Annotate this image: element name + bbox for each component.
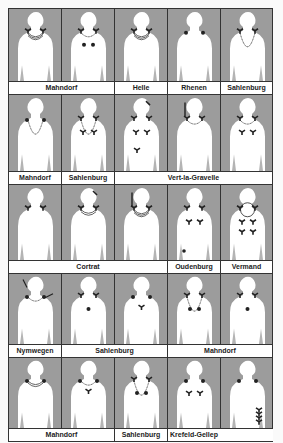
female-figure-icon [168, 9, 220, 81]
site-label: Vermand [220, 261, 273, 273]
female-figure-icon [221, 274, 273, 344]
female-figure-icon [168, 358, 220, 428]
diagram-row: NymwegenSahlenburgMahndorf [8, 274, 273, 358]
costume-figure-panel [167, 274, 220, 344]
diagram-row: MahndorfSahlenburgVert-la-Gravelle [8, 95, 273, 185]
female-figure-icon [62, 9, 114, 81]
panel-row [8, 8, 273, 81]
costume-figure-panel [8, 185, 61, 260]
costume-figure-panel [167, 95, 220, 171]
costume-figure-panel [167, 185, 220, 260]
costume-figure-panel [220, 95, 273, 171]
site-label-row: MahndorfSahlenburgKrefeld-Gellep [8, 428, 273, 442]
costume-figure-panel [167, 9, 220, 81]
costume-figure-panel [220, 9, 273, 81]
costume-figure-panel [61, 358, 114, 428]
female-figure-icon [62, 185, 114, 260]
diagram-row: CortratOudenburgVermand [8, 185, 273, 274]
costume-figure-panel [8, 95, 61, 171]
site-label: Sahlenburg [61, 172, 114, 184]
female-figure-icon [9, 9, 61, 81]
diagram-row: MahndorfSahlenburgKrefeld-Gellep [8, 358, 273, 442]
female-figure-icon [115, 9, 167, 81]
female-figure-icon [115, 95, 167, 171]
site-label-row: CortratOudenburgVermand [8, 260, 273, 274]
costume-figure-panel [114, 185, 167, 260]
site-label: Nymwegen [8, 345, 61, 357]
costume-figure-panel [220, 358, 273, 428]
costume-figure-panel [220, 185, 273, 260]
female-figure-icon [168, 95, 220, 171]
female-figure-icon [168, 185, 220, 260]
site-label-row: MahndorfHelleRhenenSahlenburg [8, 81, 273, 95]
female-figure-icon [221, 95, 273, 171]
site-label: Mahndorf [8, 172, 61, 184]
site-label: Rhenen [167, 82, 220, 94]
site-label [220, 429, 273, 441]
costume-figure-panel [114, 274, 167, 344]
site-label: Helle [114, 82, 167, 94]
costume-figure-panel [114, 9, 167, 81]
costume-figure-panel [8, 358, 61, 428]
female-figure-icon [115, 274, 167, 344]
costume-figure-panel [220, 274, 273, 344]
site-label: Vert-la-Gravelle [114, 172, 273, 184]
site-label: Mahndorf [8, 82, 114, 94]
female-figure-icon [221, 185, 273, 260]
diagram-row: MahndorfHelleRhenenSahlenburg [8, 8, 273, 95]
female-figure-icon [115, 358, 167, 428]
site-label-row: NymwegenSahlenburgMahndorf [8, 344, 273, 358]
costume-figure-panel [61, 9, 114, 81]
costume-figure-panel [8, 9, 61, 81]
female-figure-icon [221, 358, 273, 428]
female-figure-icon [62, 358, 114, 428]
female-figure-icon [9, 95, 61, 171]
female-figure-icon [115, 185, 167, 260]
female-figure-icon [62, 95, 114, 171]
female-figure-icon [9, 358, 61, 428]
panel-row [8, 274, 273, 344]
site-label: Krefeld-Gellep [167, 429, 220, 441]
female-figure-icon [221, 9, 273, 81]
site-label: Cortrat [8, 261, 167, 273]
female-figure-icon [62, 274, 114, 344]
costume-figure-panel [61, 95, 114, 171]
female-figure-icon [9, 185, 61, 260]
site-label-row: MahndorfSahlenburgVert-la-Gravelle [8, 171, 273, 185]
site-label: Mahndorf [8, 429, 114, 441]
site-label: Sahlenburg [114, 429, 167, 441]
female-figure-icon [9, 274, 61, 344]
costume-figure-panel [114, 358, 167, 428]
panel-row [8, 358, 273, 428]
costume-figure-panel [61, 185, 114, 260]
site-label: Mahndorf [167, 345, 273, 357]
costume-figure-panel [8, 274, 61, 344]
panel-row [8, 185, 273, 260]
panel-row [8, 95, 273, 171]
site-label: Oudenburg [167, 261, 220, 273]
site-label: Sahlenburg [61, 345, 167, 357]
costume-diagram-grid: MahndorfHelleRhenenSahlenburgMahndorfSah… [8, 8, 273, 442]
site-label: Sahlenburg [220, 82, 273, 94]
costume-figure-panel [167, 358, 220, 428]
costume-figure-panel [61, 274, 114, 344]
female-figure-icon [168, 274, 220, 344]
costume-figure-panel [114, 95, 167, 171]
